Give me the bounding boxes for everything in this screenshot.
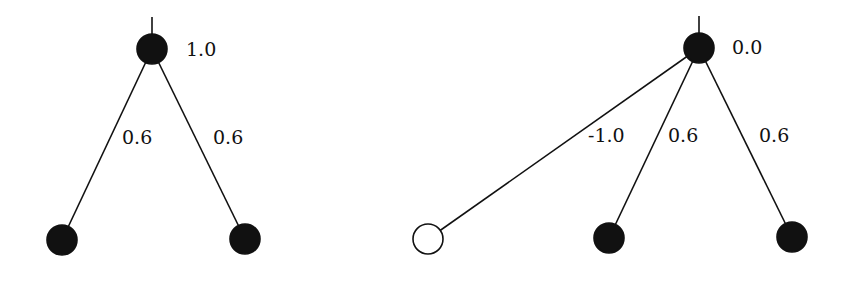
edge-line <box>428 48 699 239</box>
edge-weight-label: 0.6 <box>759 126 789 145</box>
root-value-label: 1.0 <box>186 40 216 59</box>
edge-weight-label: 0.6 <box>668 126 698 145</box>
filled-leaf-node <box>230 224 260 254</box>
tree-diagram: 0.60.61.0-1.00.60.60.0 <box>0 0 850 283</box>
root-node <box>684 33 714 63</box>
edge-weight-label: 0.6 <box>122 128 152 147</box>
edge-weight-label: 0.6 <box>213 128 243 147</box>
filled-leaf-node <box>594 223 624 253</box>
open-leaf-node <box>413 224 443 254</box>
edge-weight-label: -1.0 <box>588 126 625 145</box>
filled-leaf-node <box>777 222 807 252</box>
filled-leaf-node <box>47 225 77 255</box>
root-value-label: 0.0 <box>732 38 762 57</box>
root-node <box>137 34 167 64</box>
